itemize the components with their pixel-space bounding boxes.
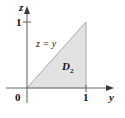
y-axis-label: y — [109, 92, 114, 103]
z-axis-arrowhead-icon — [24, 6, 30, 14]
z-axis-label: z — [19, 2, 23, 13]
math-figure-region-d2: z y 1 1 0 z = y D2 — [0, 0, 125, 118]
z-axis-tick-label-1: 1 — [16, 17, 22, 28]
region-d2-label: D2 — [62, 61, 73, 75]
origin-label: 0 — [15, 92, 21, 103]
region-d2-letter: D — [62, 60, 70, 72]
y-axis-tick-label-1: 1 — [83, 92, 89, 103]
plane-equation-label: z = y — [36, 39, 56, 49]
region-d2-subscript: 2 — [70, 67, 74, 75]
